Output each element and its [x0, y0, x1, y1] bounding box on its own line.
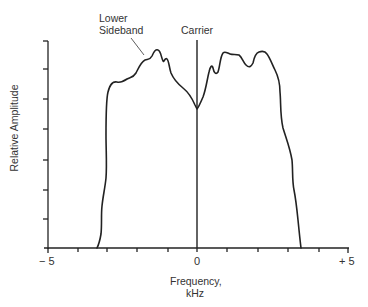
y-axis-label: Relative Amplitude [8, 85, 20, 172]
y-axis-ticks [43, 41, 48, 219]
lower-sideband-pointer [131, 38, 144, 55]
x-tick-label-max: + 5 [339, 255, 355, 267]
carrier-label: Carrier [181, 24, 213, 36]
x-axis-ticks [48, 248, 348, 253]
lower-sideband-label-line2: Sideband [99, 24, 143, 36]
spectrum-chart [0, 0, 368, 307]
x-tick-label-zero: 0 [194, 255, 200, 267]
x-axis-label-line2: kHz [186, 287, 204, 299]
x-axis-label-line1: Frequency, [170, 275, 222, 287]
x-tick-label-min: − 5 [39, 255, 55, 267]
spectrum-curve [97, 50, 301, 248]
lower-sideband-label-line1: Lower [99, 12, 128, 24]
